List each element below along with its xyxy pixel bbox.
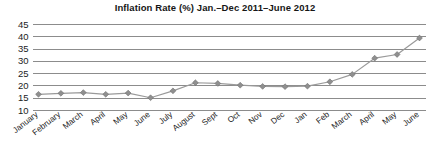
data-point-marker [192, 80, 198, 86]
y-axis-tick-label: 10 [18, 105, 29, 116]
y-axis-tick-label: 30 [18, 55, 29, 66]
data-point-marker [260, 84, 266, 90]
x-axis-tick-label: Jan [293, 110, 309, 125]
y-axis-tick-labels: 4540353025201510 [18, 19, 29, 116]
x-axis-tick-label: Dec [269, 110, 286, 126]
data-series-group [39, 38, 420, 98]
y-axis-tick-label: 40 [18, 31, 29, 42]
x-axis-tick-label: April [357, 110, 376, 127]
data-point-markers [36, 35, 423, 101]
data-point-marker [170, 88, 176, 94]
x-axis-tick-label: Sept [200, 110, 219, 128]
x-axis-tick-label: May [381, 109, 399, 126]
y-axis-tick-label: 45 [18, 19, 29, 30]
data-point-marker [36, 91, 42, 97]
y-axis-tick-label: 15 [18, 92, 29, 103]
data-point-marker [125, 90, 131, 96]
x-axis-tick-labels: JanuaryFebruaryMarchAprilMayJuneJulyAugu… [11, 109, 421, 137]
inflation-rate-chart: Inflation Rate (%) Jan.–Dec 2011–June 20… [0, 0, 430, 154]
series-line-inflation-rate [39, 38, 420, 98]
x-axis-tick-label: Feb [314, 110, 331, 126]
y-axis-tick-label: 25 [18, 68, 29, 79]
x-axis-tick-label: June [132, 110, 152, 128]
data-point-marker [58, 90, 64, 96]
x-axis-tick-label: Nov [247, 109, 265, 126]
data-point-marker [237, 82, 243, 88]
x-axis-tick-label: March [61, 110, 85, 131]
data-point-marker [148, 95, 154, 101]
data-point-marker [327, 79, 333, 85]
data-point-marker [103, 91, 109, 97]
chart-plot-area: 4540353025201510 JanuaryFebruaryMarchApr… [0, 0, 430, 154]
x-axis-tick-label: Oct [226, 110, 242, 125]
x-axis-tick-label: June [401, 110, 421, 128]
data-point-marker [282, 84, 288, 90]
x-axis-tick-label: March [330, 110, 354, 131]
y-axis-tick-label: 20 [18, 80, 29, 91]
data-point-marker [305, 83, 311, 89]
y-axis-tick-label: 35 [18, 43, 29, 54]
x-axis-tick-label: August [171, 110, 197, 133]
data-point-marker [80, 90, 86, 96]
x-axis-tick-label: April [89, 110, 108, 127]
x-axis-tick-label: May [112, 109, 130, 126]
gridlines-group [33, 25, 426, 111]
